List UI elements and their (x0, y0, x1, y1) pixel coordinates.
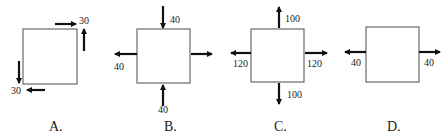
caption-b: B. (164, 119, 177, 134)
caption-d: D. (387, 119, 401, 134)
force-label-b-left: 40 (114, 61, 124, 72)
element-square-d (366, 27, 419, 82)
element-square-c (251, 29, 304, 82)
force-label-d-left: 40 (351, 57, 361, 68)
force-label-b-top: 40 (170, 14, 180, 25)
caption-c: C. (274, 119, 287, 134)
panel-b: 40 40 40 B. (114, 6, 212, 134)
force-label-c-top: 100 (285, 13, 300, 24)
force-label-a-bottom: 30 (11, 85, 21, 96)
panel-a: 30 30 A. (11, 15, 89, 134)
caption-a: A. (49, 119, 63, 134)
force-label-c-bottom: 100 (287, 89, 302, 100)
element-square-b (137, 29, 190, 83)
force-label-c-right: 120 (307, 58, 322, 69)
force-label-c-left: 120 (233, 58, 248, 69)
element-square-a (23, 29, 77, 84)
force-label-d-right: 40 (424, 57, 434, 68)
panel-c: 100 120 120 100 C. (231, 7, 327, 134)
panel-d: 40 40 D. (345, 27, 440, 134)
force-label-b-bottom: 40 (158, 104, 168, 115)
stress-element-diagram: 30 30 A. 40 40 40 B. 100 120 120 100 C. … (0, 0, 448, 139)
force-label-a-top: 30 (79, 15, 89, 26)
